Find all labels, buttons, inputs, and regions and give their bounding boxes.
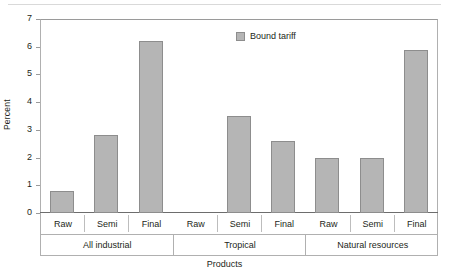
bar-series-layer [40,19,438,213]
x-axis-category-separator [84,215,85,232]
x-axis-category-separator [261,215,262,232]
x-axis-category-separator [394,215,395,232]
legend-swatch-bound-tariff [236,32,245,41]
y-tick-label: 7 [18,14,32,23]
y-tick-label: 5 [18,69,32,78]
y-tick-label: 2 [18,153,32,162]
x-axis-category-label: Raw [174,213,218,234]
y-axis-title: Percent [2,82,16,148]
bar [139,41,163,213]
x-axis-category-label: Semi [85,213,129,234]
bar [271,141,295,213]
bar [315,158,339,213]
top-divider-rule [8,4,441,5]
x-axis-category-separator [350,215,351,232]
y-tick-label: 3 [18,125,32,134]
y-tick-label: 0 [18,208,32,217]
x-axis-category-label: Final [262,213,306,234]
x-axis-category-label: Semi [218,213,262,234]
bar [50,191,74,213]
chart-legend: Bound tariff [236,32,296,41]
x-axis-category-row: RawSemiFinalRawSemiFinalRawSemiFinal [40,213,438,234]
bar [360,158,384,213]
x-axis-group-separator [173,234,174,256]
x-axis-category-separator [217,215,218,232]
x-axis-group-separator [305,234,306,256]
x-axis-group-label: Tropical [174,235,307,255]
bar [404,50,428,214]
x-axis-category-label: Final [129,213,173,234]
x-axis-category-label: Semi [351,213,395,234]
bar-chart-figure: Percent 01234567 Bound tariff RawSemiFin… [0,0,449,280]
x-axis-group-row: All industrialTropicalNatural resources [40,234,438,256]
y-tick-label: 4 [18,97,32,106]
x-axis-title: Products [0,259,449,269]
bar [227,116,251,213]
x-axis-category-label: Raw [306,213,350,234]
x-axis-group-label: Natural resources [306,235,439,255]
y-tick-label: 6 [18,42,32,51]
x-axis-category-label: Raw [41,213,85,234]
x-axis-category-label: Final [395,213,439,234]
y-tick-label: 1 [18,180,32,189]
legend-label-bound-tariff: Bound tariff [250,32,296,41]
x-axis-group-label: All industrial [41,235,174,255]
x-axis-category-separator [128,215,129,232]
bar [94,135,118,213]
